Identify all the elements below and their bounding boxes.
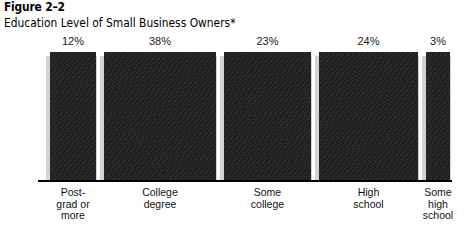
bar-value-label: 12% <box>50 34 96 48</box>
bar-value-label: 24% <box>319 34 418 48</box>
bar[interactable] <box>50 52 96 180</box>
bar[interactable] <box>224 52 311 180</box>
bar[interactable] <box>104 52 216 180</box>
figure-number: Figure 2–2 <box>4 1 427 14</box>
category-label: Some high school <box>412 187 464 222</box>
bar-value-label: 23% <box>224 34 311 48</box>
bar-value-label: 38% <box>104 34 216 48</box>
axis-baseline <box>38 180 452 182</box>
bar[interactable] <box>319 52 418 180</box>
bar[interactable] <box>426 52 450 180</box>
figure-title: Education Level of Small Business Owners… <box>4 16 427 30</box>
chart-plot-area: 12%38%23%24%3% Post- grad or moreCollege… <box>0 34 465 231</box>
bar-value-label: 3% <box>426 34 450 48</box>
figure-heading: Figure 2–2 Education Level of Small Busi… <box>4 0 459 30</box>
category-label: College degree <box>90 187 230 210</box>
